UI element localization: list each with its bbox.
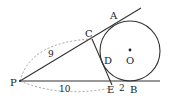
measure-pe: 10: [59, 84, 71, 94]
label-p: P: [10, 77, 17, 88]
label-a: A: [109, 10, 118, 21]
measure-eb: 2: [119, 83, 125, 93]
tangent-line-pa: [20, 8, 141, 81]
label-e: E: [107, 84, 114, 95]
label-d: D: [104, 55, 112, 66]
point-dot-p: [19, 80, 21, 82]
label-c: C: [85, 28, 93, 39]
label-o: O: [126, 55, 134, 66]
label-b: B: [130, 84, 137, 95]
geometry-diagram: P A C D O E B 9 10 2: [0, 0, 170, 98]
measure-pc: 9: [48, 49, 54, 59]
center-dot-o: [129, 49, 132, 52]
